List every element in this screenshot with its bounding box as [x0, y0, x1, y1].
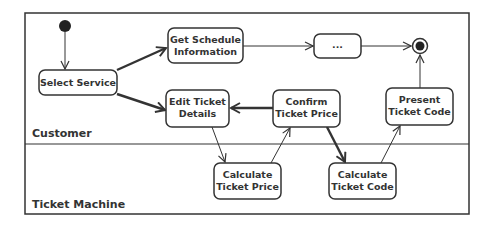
edge-select-service-to-edit-ticket [117, 94, 165, 110]
action-confirm-ticket-price[interactable]: Confirm Ticket Price [273, 90, 340, 127]
action-present-ticket-code[interactable]: Present Ticket Code [386, 88, 453, 125]
action-label-line2: Ticket Code [388, 106, 450, 117]
action-ellipsis[interactable]: ... [314, 34, 361, 58]
action-label-line2: Ticket Price [275, 108, 338, 119]
action-label-line1: Present [399, 94, 441, 105]
action-get-schedule-information[interactable]: Get Schedule Information [168, 28, 243, 63]
action-calculate-ticket-code[interactable]: Calculate Ticket Code [329, 163, 396, 199]
swimlane-label-ticket-machine: Ticket Machine [32, 198, 125, 211]
edge-select-service-to-get-schedule [117, 48, 166, 70]
action-select-service[interactable]: Select Service [39, 70, 117, 95]
action-label-line1: Calculate [338, 169, 388, 180]
action-edit-ticket-details[interactable]: Edit Ticket Details [166, 90, 229, 127]
action-label-line2: Ticket Price [216, 181, 279, 192]
swimlane-label-customer: Customer [32, 127, 92, 140]
action-label-line2: Details [179, 108, 217, 119]
action-label: Select Service [40, 77, 116, 88]
edge-calc-price-to-confirm-price [271, 128, 290, 163]
action-calculate-ticket-price[interactable]: Calculate Ticket Price [214, 163, 281, 199]
action-label-line2: Ticket Code [331, 181, 393, 192]
action-label: ... [332, 39, 343, 50]
action-label-line2: Information [174, 46, 237, 57]
initial-node [59, 20, 71, 32]
final-node [413, 39, 428, 54]
action-label-line1: Get Schedule [170, 34, 241, 45]
action-label-line1: Calculate [223, 169, 273, 180]
activity-diagram: Customer Ticket Machine Select Service G… [0, 0, 492, 226]
action-label-line1: Edit Ticket [169, 96, 226, 107]
action-label-line1: Confirm [286, 96, 328, 107]
